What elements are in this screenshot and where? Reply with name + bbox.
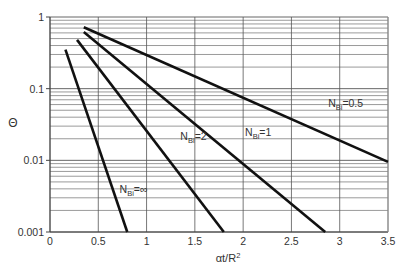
x-axis-label: αt/R2 — [216, 251, 241, 264]
tick-labels: 00.511.522.533.510.10.010.001 — [18, 11, 396, 247]
series-label: NBi=2 — [180, 130, 206, 145]
y-tick-label: 0.01 — [24, 154, 45, 166]
x-tick-label: 0 — [47, 235, 53, 247]
x-tick-label: 1 — [144, 235, 150, 247]
x-tick-label: 2.5 — [284, 235, 299, 247]
y-tick-label: 1 — [38, 11, 44, 23]
x-tick-label: 3 — [337, 235, 343, 247]
grid-lines — [50, 17, 388, 232]
series-labels: NBi=0.5NBi=1NBi=2NBi=∞ — [120, 97, 364, 198]
series-line — [84, 27, 388, 162]
y-tick-label: 0.1 — [29, 83, 44, 95]
chart: NBi=0.5NBi=1NBi=2NBi=∞ 00.511.522.533.51… — [0, 0, 397, 272]
series-line — [65, 50, 127, 232]
series-label: NBi=∞ — [120, 183, 148, 198]
series-label: NBi=0.5 — [328, 97, 363, 112]
y-tick-label: 0.001 — [18, 226, 44, 238]
axes — [46, 17, 388, 232]
x-tick-label: 1.5 — [188, 235, 203, 247]
x-tick-label: 2 — [240, 235, 246, 247]
x-tick-label: 0.5 — [91, 235, 106, 247]
x-tick-label: 3.5 — [381, 235, 396, 247]
y-axis-label: Θ — [8, 116, 17, 130]
